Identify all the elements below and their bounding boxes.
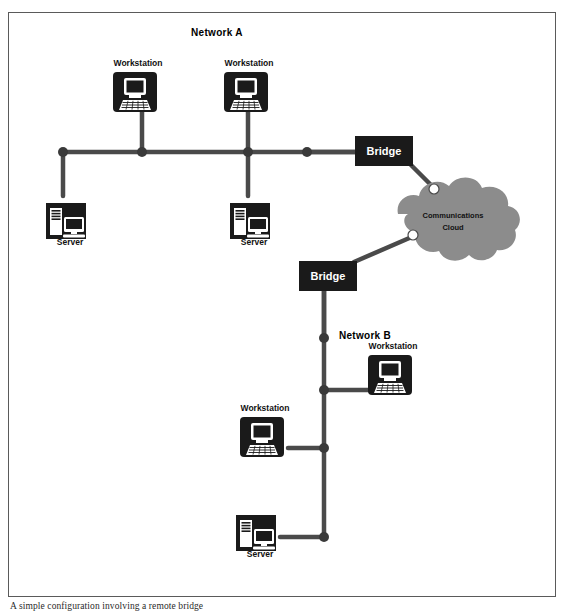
bus-node-a-4[interactable] <box>302 147 312 157</box>
server-b1[interactable] <box>236 515 276 551</box>
bus-node-b-2[interactable] <box>319 385 329 395</box>
bus-node-a-1[interactable] <box>58 147 68 157</box>
link-layer <box>63 108 436 537</box>
server-a2-icon <box>230 203 270 239</box>
bridge-a-label: Bridge <box>367 145 402 157</box>
workstation-b1-label: Workstation <box>369 341 418 351</box>
workstation-b1[interactable] <box>368 355 412 395</box>
workstation-b2[interactable] <box>240 417 284 457</box>
server-a2[interactable] <box>230 203 270 239</box>
bus-node-b-3[interactable] <box>319 443 329 453</box>
bridge-b-label: Bridge <box>311 270 346 282</box>
bus-node-b-1[interactable] <box>319 333 329 343</box>
workstation-a2-label: Workstation <box>225 58 274 68</box>
workstation-a1[interactable] <box>113 72 157 112</box>
bus-node-a-3[interactable] <box>243 147 253 157</box>
bridge-layer: BridgeBridge <box>299 136 413 291</box>
server-a1-label: Server <box>57 237 84 247</box>
bus-layer <box>58 147 355 542</box>
workstation-a2-icon <box>224 72 268 112</box>
bus-node-b-4[interactable] <box>319 532 329 542</box>
workstation-b2-label: Workstation <box>241 403 290 413</box>
workstation-b2-icon <box>240 417 284 457</box>
server-b1-label: Server <box>247 549 274 559</box>
workstation-a2[interactable] <box>224 72 268 112</box>
network-b-label: Network B <box>339 330 391 341</box>
network-a-label: Network A <box>191 27 243 38</box>
figure-caption: A simple configuration involving a remot… <box>10 601 203 611</box>
workstation-b1-icon <box>368 355 412 395</box>
bridge-a[interactable]: Bridge <box>355 136 413 166</box>
cloud-port-upper[interactable] <box>429 184 439 194</box>
server-a1-icon <box>46 203 86 239</box>
workstation-a1-icon <box>113 72 157 112</box>
workstation-a1-label: Workstation <box>114 58 163 68</box>
server-a2-label: Server <box>241 237 268 247</box>
cloud-label-line2: Cloud <box>442 223 464 232</box>
cloud-port-lower[interactable] <box>408 230 418 240</box>
bus-node-a-2[interactable] <box>137 147 147 157</box>
bridge-b[interactable]: Bridge <box>299 261 357 291</box>
link-cloud-to-bridge-b <box>354 236 414 262</box>
network-diagram: CommunicationsCloud BridgeBridge Worksta… <box>0 0 571 614</box>
server-b1-icon <box>236 515 276 551</box>
cloud-label-line1: Communications <box>423 211 484 220</box>
server-a1[interactable] <box>46 203 86 239</box>
figure-page: CommunicationsCloud BridgeBridge Worksta… <box>0 0 571 614</box>
cloud-layer: CommunicationsCloud <box>398 178 520 261</box>
